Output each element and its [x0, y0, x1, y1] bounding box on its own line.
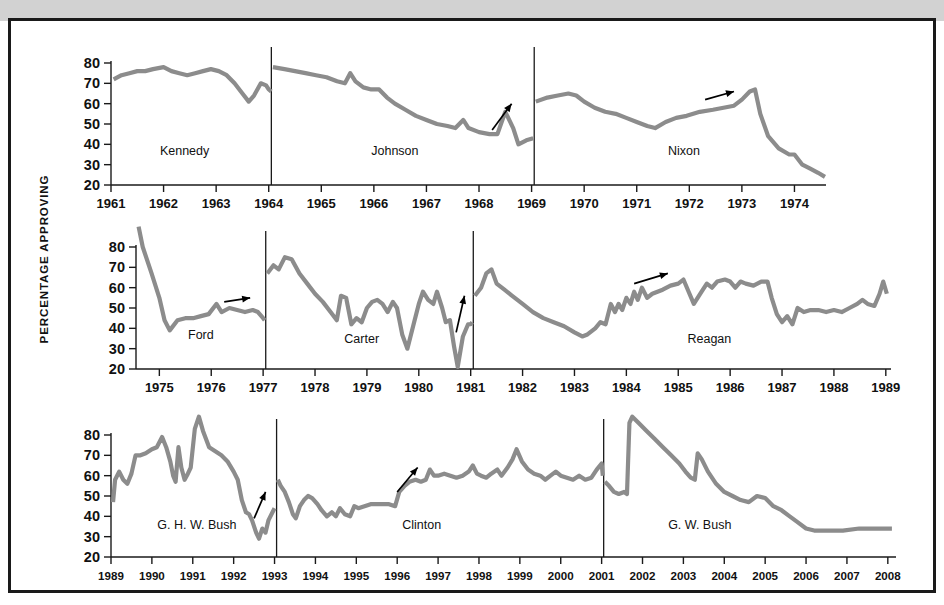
x-tick-label: 1969	[517, 196, 546, 211]
x-tick-label: 1998	[466, 569, 492, 582]
x-tick-label: 1985	[664, 380, 693, 395]
x-tick-label: 1973	[727, 196, 756, 211]
x-tick-label: 1980	[404, 380, 433, 395]
x-tick-label: 2007	[834, 569, 860, 582]
x-tick-label: 1974	[780, 196, 810, 211]
chart-row-2: 2030405060708019891990199119921993199419…	[84, 417, 901, 582]
x-tick-label: 1977	[249, 380, 278, 395]
x-tick-label: 1971	[622, 196, 651, 211]
x-tick-label: 1992	[221, 569, 247, 582]
x-tick-label: 2002	[630, 569, 656, 582]
x-tick-label: 2003	[670, 569, 696, 582]
president-label: Ford	[188, 328, 214, 342]
y-tick-label: 60	[84, 468, 100, 484]
x-tick-label: 1961	[97, 196, 126, 211]
x-tick-label: 1978	[301, 380, 330, 395]
x-tick-label: 1996	[384, 569, 410, 582]
approval-line	[114, 67, 272, 102]
x-tick-label: 2004	[711, 569, 737, 582]
chart-row-1: 2030405060708019751976197719781979198019…	[109, 227, 900, 395]
x-tick-label: 1982	[508, 380, 537, 395]
x-tick-label: 1979	[352, 380, 381, 395]
y-tick-label: 40	[109, 320, 125, 336]
x-tick-label: 1965	[307, 196, 336, 211]
y-tick-label: 80	[109, 239, 125, 255]
x-tick-label: 1988	[819, 380, 848, 395]
y-tick-label: 40	[84, 136, 100, 152]
y-tick-label: 70	[109, 259, 125, 275]
y-tick-label: 70	[84, 447, 100, 463]
x-tick-label: 1995	[343, 569, 369, 582]
x-tick-label: 1994	[303, 569, 329, 582]
chart-row-0: 2030405060708019611962196319641965196619…	[84, 47, 826, 211]
x-tick-label: 1972	[675, 196, 704, 211]
president-label: Johnson	[371, 144, 418, 158]
x-tick-label: 2008	[875, 569, 901, 582]
x-tick-label: 1983	[560, 380, 589, 395]
y-tick-label: 80	[84, 55, 100, 71]
x-tick-label: 1991	[180, 569, 206, 582]
x-tick-label: 1976	[197, 380, 226, 395]
x-tick-label: 1990	[139, 569, 165, 582]
y-tick-label: 30	[84, 529, 100, 545]
y-tick-label: 50	[84, 116, 100, 132]
trend-arrow-head	[659, 272, 668, 279]
y-tick-label: 50	[109, 300, 125, 316]
x-tick-label: 1962	[149, 196, 178, 211]
x-tick-label: 1970	[570, 196, 599, 211]
x-tick-label: 1981	[456, 380, 485, 395]
x-tick-label: 1966	[359, 196, 388, 211]
x-tick-label: 1964	[254, 196, 284, 211]
approval-line	[139, 227, 265, 331]
president-label: Nixon	[668, 144, 700, 158]
x-tick-label: 1987	[768, 380, 797, 395]
x-tick-label: 1997	[425, 569, 451, 582]
trend-arrow-head	[242, 296, 250, 303]
x-tick-label: 1993	[262, 569, 288, 582]
x-tick-label: 2000	[548, 569, 574, 582]
x-tick-label: 2006	[793, 569, 819, 582]
y-tick-label: 80	[84, 427, 100, 443]
x-tick-label: 1968	[465, 196, 494, 211]
president-label: Clinton	[402, 518, 441, 532]
y-tick-label: 30	[84, 157, 100, 173]
president-label: Kennedy	[160, 144, 210, 158]
approval-line	[536, 89, 825, 176]
y-tick-label: 70	[84, 75, 100, 91]
president-label: Reagan	[687, 332, 731, 346]
y-tick-label: 60	[109, 280, 125, 296]
president-label: G. W. Bush	[668, 518, 731, 532]
x-tick-label: 1975	[145, 380, 174, 395]
y-tick-label: 20	[84, 549, 100, 565]
y-tick-label: 40	[84, 508, 100, 524]
y-tick-label: 30	[109, 341, 125, 357]
president-label: Carter	[344, 332, 379, 346]
x-tick-label: 2005	[752, 569, 778, 582]
approval-line	[267, 257, 472, 367]
approval-chart: 2030405060708019611962196319641965196619…	[11, 21, 939, 590]
x-tick-label: 1999	[507, 569, 533, 582]
y-tick-label: 50	[84, 488, 100, 504]
approval-line	[475, 269, 887, 336]
trend-arrow-head	[725, 90, 734, 97]
y-tick-label: 20	[84, 177, 100, 193]
approval-line	[605, 417, 892, 531]
president-label: G. H. W. Bush	[157, 518, 236, 532]
x-tick-label: 1963	[202, 196, 231, 211]
y-tick-label: 60	[84, 96, 100, 112]
x-tick-label: 1967	[412, 196, 441, 211]
x-tick-label: 1986	[716, 380, 745, 395]
x-tick-label: 1989	[98, 569, 124, 582]
x-tick-label: 1984	[612, 380, 642, 395]
x-tick-label: 1989	[871, 380, 900, 395]
approval-line	[278, 449, 603, 518]
figure-border: PERCENTAGE APPROVING 2030405060708019611…	[8, 18, 936, 593]
approval-line	[273, 67, 533, 144]
y-tick-label: 20	[109, 361, 125, 377]
x-tick-label: 2001	[589, 569, 615, 582]
figure-frame: PERCENTAGE APPROVING 2030405060708019611…	[0, 0, 944, 605]
